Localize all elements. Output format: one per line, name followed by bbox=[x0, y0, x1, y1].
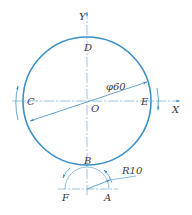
diameter-dimension-line bbox=[30, 82, 147, 121]
point-d-label: D bbox=[83, 42, 92, 53]
point-b-label: B bbox=[83, 155, 91, 166]
radius-leader bbox=[87, 180, 110, 189]
point-a-label: A bbox=[103, 192, 111, 203]
origin-label: O bbox=[91, 103, 99, 114]
x-axis-label: X bbox=[171, 104, 180, 115]
radius-dimension-label: R10 bbox=[121, 165, 143, 176]
drawing-canvas: Y X O D C E B F A φ60 R10 bbox=[0, 0, 192, 215]
point-f-label: F bbox=[61, 192, 70, 203]
diameter-dimension-label: φ60 bbox=[106, 81, 126, 92]
radius-label-leader bbox=[110, 176, 136, 180]
y-axis-label: Y bbox=[79, 11, 87, 22]
point-e-label: E bbox=[140, 96, 149, 107]
rotation-arrow-left bbox=[16, 86, 18, 120]
point-c-label: C bbox=[27, 96, 35, 107]
rotation-arrow-right bbox=[157, 88, 158, 110]
